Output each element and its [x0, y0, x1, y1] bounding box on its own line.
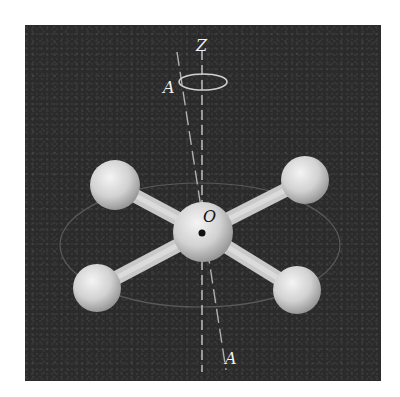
atom-upper-right — [281, 156, 329, 204]
atom-upper-left — [90, 160, 140, 210]
molecule-diagram: Z A A O — [0, 0, 400, 397]
center-label: O — [203, 207, 216, 226]
atom-lower-right — [273, 266, 321, 314]
axis-bottom-label: A — [223, 349, 237, 368]
z-axis-label: Z — [195, 36, 208, 55]
axis-top-label: A — [161, 78, 175, 97]
atom-lower-left — [73, 264, 121, 312]
center-point — [199, 230, 206, 237]
rotation-ellipse — [179, 74, 227, 90]
